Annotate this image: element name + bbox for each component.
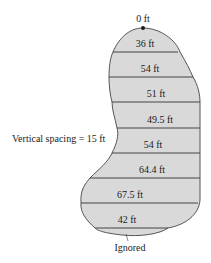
width-label-8: 42 ft [118, 214, 137, 225]
top-label: 0 ft [136, 13, 150, 24]
top-point-dot [141, 26, 145, 30]
vertical-spacing-label: Vertical spacing = 15 ft [12, 133, 106, 144]
width-label-3: 51 ft [147, 88, 166, 99]
pond-shape [81, 28, 200, 236]
width-label-4: 49.5 ft [147, 114, 173, 125]
width-label-2: 54 ft [141, 63, 160, 74]
width-label-1: 36 ft [136, 38, 155, 49]
pond-diagram: 0 ft 36 ft 54 ft 51 ft 49.5 ft 54 ft 64.… [0, 0, 211, 263]
ignored-label: Ignored [114, 242, 145, 253]
width-label-7: 67.5 ft [117, 189, 143, 200]
width-label-6: 64.4 ft [139, 164, 165, 175]
width-label-5: 54 ft [144, 139, 163, 150]
